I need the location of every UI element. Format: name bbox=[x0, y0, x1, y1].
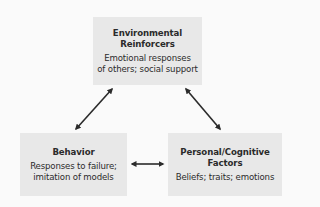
title-line: Behavior bbox=[52, 147, 94, 158]
node-description: Responses to failure; imitation of model… bbox=[30, 161, 117, 183]
body-line: Emotional responses bbox=[97, 53, 198, 64]
node-description: Emotional responses of others; social su… bbox=[97, 53, 198, 75]
body-line: imitation of models bbox=[30, 172, 117, 183]
title-line: Reinforcers bbox=[113, 39, 182, 50]
body-line: of others; social support bbox=[97, 64, 198, 75]
node-behavior: Behavior Responses to failure; imitation… bbox=[20, 133, 127, 196]
node-description: Beliefs; traits; emotions bbox=[176, 172, 275, 183]
title-line: Personal/Cognitive bbox=[180, 147, 270, 158]
node-title: Behavior bbox=[52, 147, 94, 158]
node-environmental-reinforcers: Environmental Reinforcers Emotional resp… bbox=[93, 17, 202, 85]
arrow-env-personal bbox=[186, 89, 220, 129]
body-line: Responses to failure; bbox=[30, 161, 117, 172]
title-line: Environmental bbox=[113, 28, 182, 39]
node-title: Environmental Reinforcers bbox=[113, 28, 182, 50]
title-line: Factors bbox=[180, 158, 270, 169]
body-line: Beliefs; traits; emotions bbox=[176, 172, 275, 183]
arrow-env-behavior bbox=[76, 89, 112, 129]
node-personal-cognitive-factors: Personal/Cognitive Factors Beliefs; trai… bbox=[168, 133, 282, 196]
node-title: Personal/Cognitive Factors bbox=[180, 147, 270, 169]
